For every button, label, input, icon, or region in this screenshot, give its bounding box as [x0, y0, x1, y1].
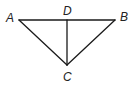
segment-bc	[67, 20, 115, 65]
label-c: C	[63, 70, 72, 84]
label-a: A	[5, 11, 14, 25]
label-d: D	[63, 4, 72, 18]
segment-ac	[19, 20, 67, 65]
triangle-diagram: A D B C	[0, 0, 136, 87]
label-b: B	[120, 10, 128, 24]
